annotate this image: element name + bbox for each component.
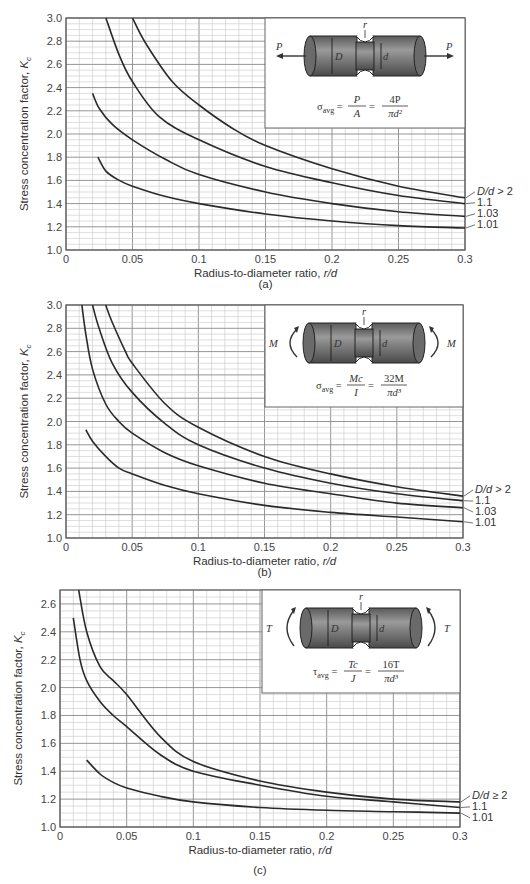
y-tick-label: 1.8 (41, 709, 56, 721)
curve-labels: D/d > 21.11.031.01 (464, 483, 511, 528)
x-tick-label: 0.1 (191, 541, 206, 553)
formula-mid-numerator: Mc (348, 373, 363, 384)
x-tick-label: 0.25 (388, 253, 409, 265)
x-tick-label: 0 (63, 253, 69, 265)
curve-labels: D/d > 21.11.031.01 (466, 185, 513, 230)
diameter-D-label: D (333, 338, 342, 349)
y-tick-label: 1.0 (47, 244, 62, 256)
y-tick-label: 1.0 (41, 821, 56, 833)
x-tick-label: 0.05 (121, 541, 142, 553)
load-left-label: M (268, 338, 279, 349)
x-tick-label: 0 (63, 541, 69, 553)
diameter-d-label: d (383, 51, 389, 62)
legend-label: 1.01 (472, 811, 493, 823)
x-tick-label: 0.15 (254, 541, 275, 553)
svg-text:=: = (369, 101, 375, 112)
y-tick-label: 1.6 (47, 462, 62, 474)
load-P-right-label: P (445, 41, 453, 52)
panel-caption: (b) (257, 566, 271, 578)
chart-b: DdrMMσavg =McI=32Mπd³D/d > 21.11.031.010… (0, 290, 530, 582)
formula-rhs-numerator: 16T (383, 659, 401, 670)
y-tick-label: 1.4 (41, 765, 56, 777)
y-tick-label: 2.8 (47, 35, 62, 47)
y-tick-label: 2.4 (47, 369, 62, 381)
x-tick-label: 0 (57, 830, 63, 842)
load-P-left-label: P (275, 41, 283, 52)
inset-diagram-axial: DdrPPσavg =PA=4Pπd² (265, 18, 465, 128)
x-tick-label: 0.25 (383, 830, 404, 842)
y-tick-label: 2.6 (41, 598, 56, 610)
x-tick-label: 0.15 (255, 253, 276, 265)
chart-panel-torsion: DdrTTτavg =TcJ=16Tπd³D/d ≥ 21.11.0100.05… (0, 578, 530, 884)
x-tick-label: 0.2 (319, 830, 334, 842)
x-axis-label: Radius-to-diameter ratio, r/d (188, 844, 332, 856)
y-tick-label: 3.0 (47, 12, 62, 24)
chart-c: DdrTTτavg =TcJ=16Tπd³D/d ≥ 21.11.0100.05… (0, 578, 530, 884)
x-tick-label: 0.2 (324, 253, 339, 265)
chart-panel-bending: DdrMMσavg =McI=32Mπd³D/d > 21.11.031.010… (0, 290, 530, 582)
load-right-label: M (446, 338, 457, 349)
svg-text:=: = (368, 380, 374, 391)
inset-diagram-torsion: DdrTTτavg =TcJ=16Tπd³ (262, 590, 460, 693)
formula-rhs-denominator: πd³ (387, 387, 402, 398)
formula-rhs-numerator: 32M (384, 373, 405, 384)
x-tick-label: 0.2 (323, 541, 338, 553)
chart-a: DdrPPσavg =PA=4Pπd²D/d > 21.11.031.0100.… (0, 0, 530, 295)
formula-rhs-numerator: 4P (389, 94, 400, 105)
y-tick-label: 2.2 (47, 105, 62, 117)
x-tick-label: 0.3 (455, 541, 470, 553)
formula-rhs-denominator: πd² (388, 108, 403, 119)
y-tick-label: 2.4 (41, 626, 56, 638)
diameter-d-label: d (382, 338, 388, 349)
panel-caption: (a) (258, 278, 272, 290)
y-tick-label: 2.0 (47, 128, 62, 140)
x-tick-label: 0.3 (457, 253, 472, 265)
y-tick-label: 2.0 (47, 416, 62, 428)
x-tick-label: 0.05 (116, 830, 137, 842)
y-axis-label: Stress concentration factor, Kc (12, 631, 27, 785)
y-tick-label: 1.4 (47, 485, 62, 497)
panel-caption: (c) (253, 864, 267, 876)
y-tick-label: 2.6 (47, 346, 62, 358)
y-tick-label: 2.6 (47, 58, 62, 70)
diameter-D-label: D (334, 51, 343, 62)
x-tick-label: 0.15 (249, 830, 270, 842)
y-tick-label: 3.0 (47, 299, 62, 311)
curve-labels: D/d ≥ 21.11.01 (461, 789, 507, 823)
y-axis-label: Stress concentration factor, Kc (18, 57, 33, 211)
formula-mid-denominator: A (353, 108, 361, 119)
x-tick-label: 0.1 (186, 830, 201, 842)
formula-mid-numerator: Tc (348, 659, 358, 670)
x-tick-label: 0.3 (452, 830, 467, 842)
y-tick-label: 2.8 (47, 322, 62, 334)
curve-1.01 (98, 157, 465, 228)
y-tick-label: 2.4 (47, 82, 62, 94)
y-axis-label: Stress concentration factor, Kc (18, 344, 33, 498)
formula-mid-numerator: P (353, 94, 361, 105)
formula-rhs-denominator: πd³ (384, 673, 399, 684)
formula-mid-denominator: I (353, 387, 358, 398)
y-tick-label: 2.0 (41, 682, 56, 694)
y-tick-label: 2.2 (41, 654, 56, 666)
curve-1.01 (86, 430, 463, 522)
x-tick-label: 0.1 (191, 253, 206, 265)
chart-panel-axial: DdrPPσavg =PA=4Pπd²D/d > 21.11.031.0100.… (0, 0, 530, 295)
y-tick-label: 1.0 (47, 532, 62, 544)
y-tick-label: 1.2 (41, 793, 56, 805)
y-tick-label: 1.8 (47, 151, 62, 163)
y-tick-label: 1.4 (47, 198, 62, 210)
x-tick-label: 0.25 (386, 541, 407, 553)
svg-text:=: = (365, 666, 371, 677)
y-tick-label: 2.2 (47, 392, 62, 404)
x-tick-label: 0.05 (122, 253, 143, 265)
legend-label: 1.01 (477, 218, 498, 230)
y-tick-label: 1.8 (47, 439, 62, 451)
diameter-D-label: D (330, 623, 339, 634)
y-tick-label: 1.6 (41, 737, 56, 749)
inset-diagram-bending: DdrMMσavg =McI=32Mπd³ (265, 305, 463, 407)
y-tick-label: 1.6 (47, 174, 62, 186)
y-tick-label: 1.2 (47, 221, 62, 233)
diameter-d-label: d (379, 623, 385, 634)
legend-label: 1.01 (475, 516, 496, 528)
y-tick-label: 1.2 (47, 509, 62, 521)
